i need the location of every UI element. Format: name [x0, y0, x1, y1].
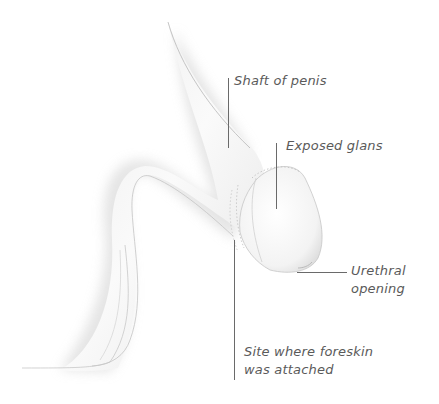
foreskin-site-leader-line	[234, 240, 235, 380]
foreskin-line-2: was attached	[244, 361, 373, 379]
diagram-canvas: Shaft of penis Exposed glans Urethral op…	[0, 0, 439, 404]
urethral-leader-line	[297, 272, 347, 273]
label-shaft-of-penis: Shaft of penis	[234, 72, 327, 90]
shaft-leader-line	[228, 78, 229, 148]
label-foreskin-site: Site where foreskin was attached	[244, 343, 373, 379]
label-exposed-glans: Exposed glans	[286, 137, 383, 155]
glans-leader-line	[276, 143, 277, 209]
foreskin-line-1: Site where foreskin	[244, 343, 373, 361]
label-urethral-opening: Urethral opening	[351, 262, 406, 298]
urethral-line-2: opening	[351, 280, 406, 298]
urethral-line-1: Urethral	[351, 262, 406, 280]
